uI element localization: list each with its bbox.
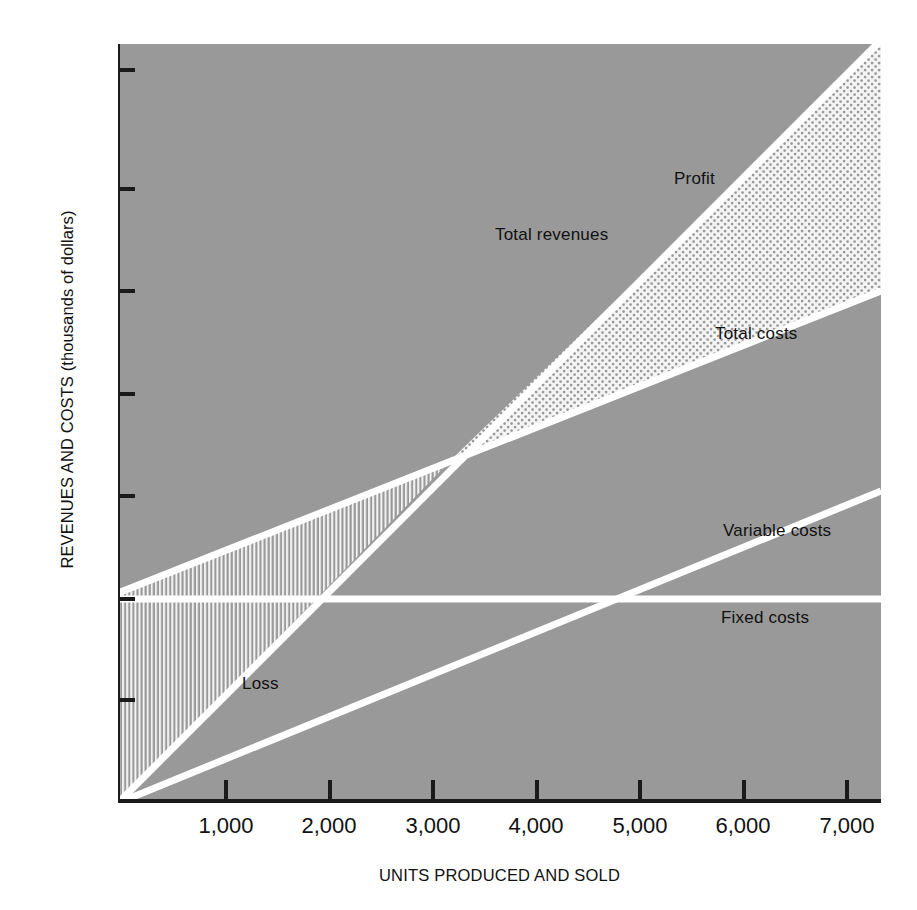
total-revenues-series-label: Total revenues xyxy=(495,225,608,245)
fixed-costs-series-label: Fixed costs xyxy=(721,608,809,628)
break-even-chart-figure: REVENUES AND COSTS (thousands of dollars… xyxy=(0,0,917,910)
x-axis-title: UNITS PRODUCED AND SOLD xyxy=(118,866,881,885)
chart-svg xyxy=(118,44,881,803)
y-axis-title: REVENUES AND COSTS (thousands of dollars… xyxy=(58,90,77,690)
x-tick-label: 7,000 xyxy=(792,815,902,837)
variable-costs-series-label: Variable costs xyxy=(723,521,831,541)
x-tick-label: 2,000 xyxy=(274,815,384,837)
x-tick-label: 1,000 xyxy=(171,815,281,837)
x-tick-label: 3,000 xyxy=(378,815,488,837)
x-tick-label: 6,000 xyxy=(688,815,798,837)
x-tick-label: 5,000 xyxy=(585,815,695,837)
x-tick-label: 4,000 xyxy=(481,815,591,837)
profit-region-label: Profit xyxy=(674,169,715,189)
loss-region-label: Loss xyxy=(242,674,279,694)
total-costs-series-label: Total costs xyxy=(715,324,798,344)
plot-area: Loss Profit Total revenues Total costs V… xyxy=(118,44,881,803)
